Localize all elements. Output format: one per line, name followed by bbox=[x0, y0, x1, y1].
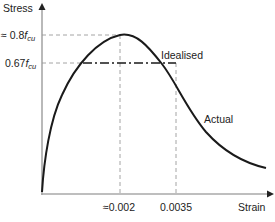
stress-strain-diagram: Stress Strain ≈ 0.8fcu 0.67fcu ≈0.002 0.… bbox=[0, 0, 275, 222]
idealised-label: Idealised bbox=[161, 49, 203, 61]
y-axis-arrow-icon bbox=[39, 3, 46, 10]
y-tick-design-subscript: cu bbox=[28, 62, 37, 71]
y-tick-peak-prefix: ≈ 0.8 bbox=[1, 29, 24, 41]
actual-label: Actual bbox=[204, 113, 233, 125]
y-tick-peak-subscript: cu bbox=[27, 34, 36, 43]
guide-lines bbox=[42, 35, 176, 193]
y-tick-design-stress: 0.67fcu bbox=[5, 57, 37, 71]
y-tick-peak-stress: ≈ 0.8fcu bbox=[1, 29, 36, 43]
x-axis-arrow-icon bbox=[267, 191, 274, 198]
y-axis-label: Stress bbox=[3, 2, 33, 14]
x-axis-label: Strain bbox=[238, 201, 266, 213]
axes bbox=[39, 3, 275, 198]
x-tick-peak-strain: ≈0.002 bbox=[103, 201, 135, 213]
x-tick-ultimate-strain: 0.0035 bbox=[160, 201, 192, 213]
y-tick-design-prefix: 0.67 bbox=[5, 57, 26, 69]
